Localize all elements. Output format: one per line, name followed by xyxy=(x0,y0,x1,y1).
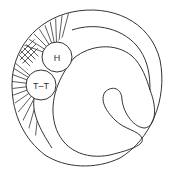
inner-band-contour-2 xyxy=(34,95,52,148)
diagram-figure: H T–T xyxy=(0,0,170,175)
tt-label: T–T xyxy=(33,81,50,91)
h-label: H xyxy=(54,53,61,63)
inner-band-contour xyxy=(72,27,150,90)
central-body-contour xyxy=(74,47,150,90)
